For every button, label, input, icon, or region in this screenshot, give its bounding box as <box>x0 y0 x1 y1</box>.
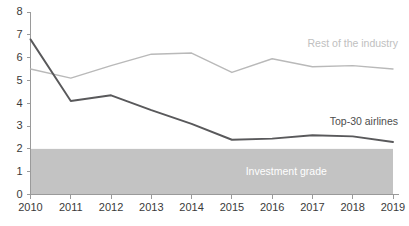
x-tick-label: 2014 <box>179 201 203 213</box>
line-chart: Investment grade 012345678 2010201120122… <box>0 0 409 226</box>
x-tick-label: 2015 <box>220 201 244 213</box>
y-tick-label: 1 <box>16 165 22 177</box>
x-tick-label: 2013 <box>139 201 163 213</box>
x-axis-ticks: 2010201120122013201420152016201720182019 <box>18 195 405 213</box>
chart-canvas: Investment grade 012345678 2010201120122… <box>0 0 409 226</box>
series-line-rest-of-industry <box>31 53 394 78</box>
y-tick-label: 2 <box>16 142 22 154</box>
y-axis-ticks: 012345678 <box>16 5 30 200</box>
x-tick-label: 2010 <box>18 201 42 213</box>
shaded-region-group: Investment grade <box>31 149 394 195</box>
x-tick-label: 2018 <box>340 201 364 213</box>
y-tick-label: 0 <box>16 188 22 200</box>
x-tick-label: 2011 <box>59 201 83 213</box>
y-tick-label: 8 <box>16 5 22 17</box>
x-tick-label: 2012 <box>99 201 123 213</box>
y-tick-label: 5 <box>16 74 22 86</box>
rest-of-industry-label: Rest of the industry <box>308 37 399 49</box>
y-tick-label: 3 <box>16 119 22 131</box>
y-tick-label: 6 <box>16 51 22 63</box>
investment-grade-band <box>31 149 394 195</box>
x-tick-label: 2019 <box>381 201 405 213</box>
top-30-airlines-label: Top-30 airlines <box>330 115 398 127</box>
investment-grade-label: Investment grade <box>246 165 327 177</box>
x-tick-label: 2017 <box>300 201 324 213</box>
x-tick-label: 2016 <box>260 201 284 213</box>
y-tick-label: 4 <box>16 97 22 109</box>
y-tick-label: 7 <box>16 28 22 40</box>
